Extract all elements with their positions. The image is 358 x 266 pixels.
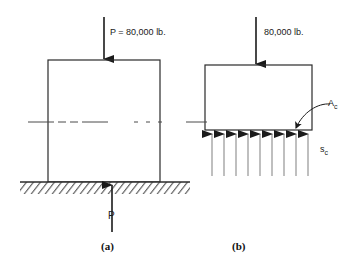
bearing-stress-subscript: c [325,149,329,156]
panel-a-reaction-label: P [108,211,115,221]
figure-root: P = 80,000 lb. P 80,000 lb. Ac sc (a) (b… [0,0,358,266]
panel-b-load-label: 80,000 lb. [264,28,304,37]
bearing-area-subscript: c [334,103,338,110]
bearing-stress-label: sc [320,145,328,156]
bearing-area-label: Ac [328,99,338,110]
panel-b-column [205,65,312,130]
area-leader-line [296,104,330,128]
caption-panel-a: (a) [101,240,114,252]
ground-hatch-band [20,182,190,194]
panel-b-group [186,17,330,176]
engineering-diagram [0,0,358,266]
bearing-stress-arrows [212,134,308,176]
panel-a-group [20,17,190,232]
caption-panel-b: (b) [232,240,245,252]
panel-a-column [48,60,160,182]
panel-a-load-label: P = 80,000 lb. [110,28,166,37]
